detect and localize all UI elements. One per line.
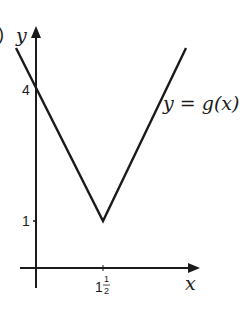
y-tick-1: 1 [22, 213, 30, 229]
x-tick-1-5: 1 1 2 [95, 274, 110, 296]
graph-diagram: ) y x 4 1 1 1 2 y = g(x) [0, 0, 246, 309]
curve-label: y = g(x) [162, 92, 239, 114]
svg-text:1: 1 [95, 279, 103, 295]
svg-text:1: 1 [104, 274, 109, 284]
y-axis-arrow-icon [31, 26, 41, 38]
y-axis-label: y [15, 24, 27, 46]
part-marker: ) [0, 24, 4, 44]
y-tick-4: 4 [22, 82, 30, 98]
x-axis-label: x [185, 272, 196, 294]
svg-text:2: 2 [104, 286, 109, 296]
graph-line-g [16, 48, 186, 221]
